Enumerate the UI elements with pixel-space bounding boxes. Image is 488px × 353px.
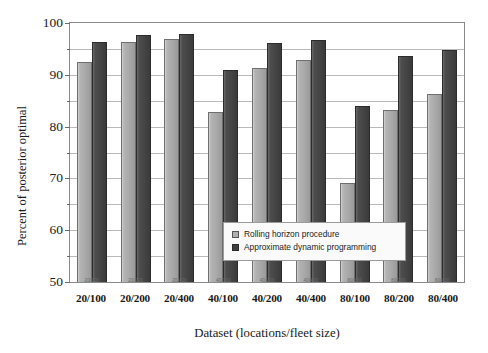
legend-label-rolling-horizon: Rolling horizon procedure xyxy=(244,229,339,239)
x-axis-category-label: 80/200 xyxy=(377,292,421,304)
y-axis-title: Percent of posterior optimal xyxy=(12,50,30,250)
x-axis-inner-category-label: 20/200 xyxy=(128,278,143,283)
x-axis-category-label: 40/100 xyxy=(201,292,245,304)
bar-rolling-horizon xyxy=(121,42,136,282)
bar-rolling-horizon xyxy=(164,39,179,282)
bar-rolling-horizon xyxy=(427,94,442,282)
x-axis-category-label: 20/100 xyxy=(69,292,113,304)
legend-label-approximate-dynamic-programming: Approximate dynamic programming xyxy=(244,242,376,252)
legend-item-approximate-dynamic-programming: Approximate dynamic programming xyxy=(232,242,399,252)
bar-approximate-dynamic-programming xyxy=(442,50,457,282)
x-axis-category-label: 20/400 xyxy=(157,292,201,304)
y-axis-tick-label: 50 xyxy=(50,274,64,290)
bar-approximate-dynamic-programming xyxy=(92,42,107,282)
x-axis-title: Dataset (locations/fleet size) xyxy=(69,326,465,341)
x-axis-category-label: 80/400 xyxy=(421,292,465,304)
bar-group: 80/400 xyxy=(420,23,464,282)
y-axis-tick-label: 90 xyxy=(50,67,64,83)
x-axis-inner-category-label: 80/100 xyxy=(347,278,362,283)
bar-group: 20/400 xyxy=(158,23,202,282)
x-axis-inner-category-label: 20/400 xyxy=(172,278,187,283)
legend-swatch-dark-square-icon xyxy=(232,244,239,251)
bar-approximate-dynamic-programming xyxy=(179,34,194,282)
x-axis-category-labels: 20/10020/20020/40040/10040/20040/40080/1… xyxy=(69,292,465,304)
x-axis-inner-category-label: 80/200 xyxy=(391,278,406,283)
y-axis-tick-label: 60 xyxy=(50,222,64,238)
bar-group: 20/100 xyxy=(70,23,114,282)
bar-approximate-dynamic-programming xyxy=(136,35,151,282)
bar-rolling-horizon xyxy=(208,112,223,282)
x-axis-category-label: 80/100 xyxy=(333,292,377,304)
x-axis-inner-category-label: 40/100 xyxy=(216,278,231,283)
bar-chart-figure: Percent of posterior optimal 50607080901… xyxy=(0,0,488,353)
plot-area: 5060708090100 20/10020/20020/40040/10040… xyxy=(69,22,465,283)
legend-item-rolling-horizon: Rolling horizon procedure xyxy=(232,229,399,239)
x-axis-category-label: 40/400 xyxy=(289,292,333,304)
x-axis-inner-category-label: 20/100 xyxy=(85,278,100,283)
y-axis-tick-label: 70 xyxy=(50,170,64,186)
y-axis-tick-label: 100 xyxy=(43,15,63,31)
y-axis-title-text: Percent of posterior optimal xyxy=(15,106,30,246)
x-axis-inner-category-label: 80/400 xyxy=(435,278,450,283)
x-axis-inner-category-label: 40/400 xyxy=(303,278,318,283)
y-axis-tick-label: 80 xyxy=(50,119,64,135)
legend: Rolling horizon procedure Approximate dy… xyxy=(223,222,406,261)
bar-group: 20/200 xyxy=(114,23,158,282)
y-axis-tick-major xyxy=(65,282,70,283)
x-axis-inner-category-label: 40/200 xyxy=(260,278,275,283)
x-axis-category-label: 20/200 xyxy=(113,292,157,304)
bar-rolling-horizon xyxy=(77,62,92,282)
legend-swatch-light-square-icon xyxy=(232,231,239,238)
x-axis-category-label: 40/200 xyxy=(245,292,289,304)
